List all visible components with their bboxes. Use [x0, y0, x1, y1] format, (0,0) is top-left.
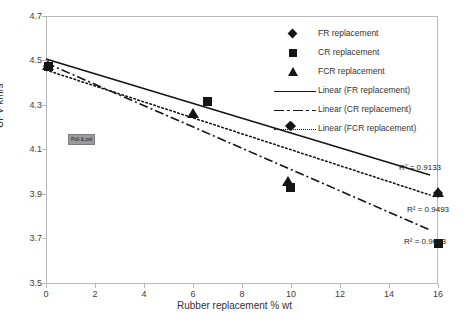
r2-label-fr: R² = 0.9133: [399, 163, 441, 172]
legend-label: Linear (FR replacement): [318, 85, 410, 96]
x-tick-label: 2: [85, 289, 105, 299]
legend-item-linear-cr[interactable]: Linear (CR replacement): [272, 100, 440, 119]
y-tick-mark: [42, 149, 46, 150]
x-tick-label: 8: [232, 289, 252, 299]
x-tick-mark: [242, 284, 243, 288]
legend-label: CR replacement: [318, 47, 379, 58]
legend-item-fr-replacement[interactable]: FR replacement: [272, 24, 440, 43]
legend-item-cr-replacement[interactable]: CR replacement: [272, 43, 440, 62]
y-tick-label: 4.5: [16, 55, 42, 65]
upv-rubber-replacement-chart: 4.7 4.5 4.3 4.1 3.9 3.7 3.5 0 2 4 6 8 10…: [0, 0, 469, 334]
y-tick-mark: [42, 16, 46, 17]
y-tick-mark: [42, 60, 46, 61]
x-tick-mark: [95, 284, 96, 288]
legend-item-linear-fr[interactable]: Linear (FR replacement): [272, 81, 440, 100]
x-tick-mark: [389, 284, 390, 288]
legend-label: FR replacement: [318, 28, 378, 39]
x-tick-label: 12: [330, 289, 350, 299]
y-tick-mark: [42, 194, 46, 195]
legend-item-linear-fcr[interactable]: Linear (FCR replacement): [272, 119, 440, 138]
square-marker-icon: [272, 46, 318, 60]
x-tick-mark: [438, 284, 439, 288]
y-tick-label: 4.3: [16, 100, 42, 110]
dash-dot-line-icon: [272, 103, 318, 117]
x-tick-label: 10: [281, 289, 301, 299]
legend-label: FCR replacement: [318, 66, 385, 77]
x-tick-mark: [144, 284, 145, 288]
data-annotation-label: Poli & pol: [68, 134, 95, 145]
y-tick-label: 3.7: [16, 233, 42, 243]
dotted-line-icon: [272, 122, 318, 136]
y-tick-label: 3.5: [16, 278, 42, 288]
x-tick-label: 6: [183, 289, 203, 299]
legend-item-fcr-replacement[interactable]: FCR replacement: [272, 62, 440, 81]
y-tick-mark: [42, 238, 46, 239]
x-tick-mark: [291, 284, 292, 288]
diamond-marker-icon: [272, 27, 318, 41]
legend: FR replacement CR replacement FCR replac…: [272, 24, 440, 138]
y-axis-title: UPV km/s: [0, 84, 5, 128]
x-tick-label: 14: [379, 289, 399, 299]
legend-label: Linear (CR replacement): [318, 104, 411, 115]
x-tick-label: 16: [428, 289, 448, 299]
y-tick-label: 3.9: [16, 189, 42, 199]
x-tick-mark: [340, 284, 341, 288]
y-tick-mark: [42, 105, 46, 106]
x-tick-mark: [46, 284, 47, 288]
x-tick-label: 0: [36, 289, 56, 299]
legend-label: Linear (FCR replacement): [318, 123, 416, 134]
x-axis-title: Rubber replacement % wt: [0, 300, 469, 311]
r2-label-fcr: R² = 0.9493: [407, 205, 449, 214]
solid-line-icon: [272, 84, 318, 98]
triangle-marker-icon: [272, 65, 318, 79]
x-tick-label: 4: [134, 289, 154, 299]
x-tick-mark: [193, 284, 194, 288]
r2-label-cr: R² = 0.9683: [404, 237, 446, 246]
y-tick-label: 4.7: [16, 11, 42, 21]
y-tick-label: 4.1: [16, 144, 42, 154]
